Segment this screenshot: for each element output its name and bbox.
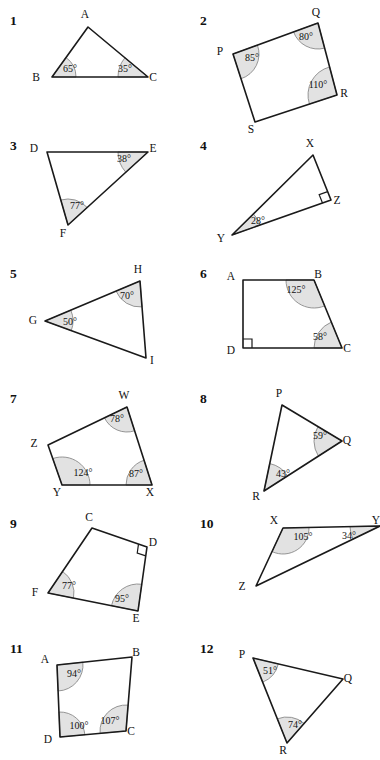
problem-6: 6125°58°ABCD — [190, 258, 380, 383]
angle-measure-E: 38° — [117, 153, 131, 164]
vertex-label-D: D — [30, 142, 38, 154]
angle-measure-B: 65° — [63, 63, 77, 74]
vertex-label-X: X — [270, 514, 279, 526]
figure-8: 59°43°PQR — [190, 383, 380, 508]
vertex-label-Z: Z — [238, 580, 245, 592]
vertex-label-E: E — [149, 142, 156, 154]
angle-measure-Q: 80° — [299, 31, 313, 42]
vertex-label-B: B — [132, 646, 140, 658]
vertex-label-Z: Z — [333, 194, 340, 206]
problem-4: 428°XYZ — [190, 130, 380, 255]
vertex-label-R: R — [252, 490, 260, 502]
worksheet-page: 165°35°ABC285°80°110°PQRS338°77°DEF428°X… — [0, 0, 380, 760]
figure-3: 38°77°DEF — [0, 130, 190, 255]
problem-2: 285°80°110°PQRS — [190, 5, 380, 130]
angle-measure-G: 50° — [63, 316, 77, 327]
vertex-label-A: A — [41, 653, 50, 665]
vertex-label-P: P — [217, 45, 223, 57]
figure-11: 94°107°100°ABCD — [0, 633, 190, 758]
vertex-label-I: I — [150, 354, 154, 366]
problem-8: 859°43°PQR — [190, 383, 380, 508]
problem-10: 10105°34°XYZ — [190, 508, 380, 633]
angle-measure-P: 51° — [263, 665, 277, 676]
vertex-label-A: A — [81, 8, 90, 20]
vertex-label-C: C — [149, 71, 157, 83]
angle-measure-D: 100° — [70, 720, 89, 731]
vertex-label-G: G — [29, 314, 37, 326]
vertex-label-W: W — [119, 389, 130, 401]
angle-measure-C: 58° — [313, 331, 327, 342]
angle-measure-C: 35° — [118, 63, 132, 74]
vertex-label-H: H — [134, 263, 142, 275]
shape-outline — [256, 526, 380, 586]
figure-12: 51°74°PQR — [190, 633, 380, 758]
vertex-label-X: X — [306, 137, 315, 149]
problem-5: 550°70°GHI — [0, 258, 190, 383]
angle-measure-R: 74° — [288, 719, 302, 730]
angle-measure-X: 105° — [294, 531, 313, 542]
angle-measure-H: 70° — [120, 290, 134, 301]
vertex-label-B: B — [32, 71, 40, 83]
vertex-label-F: F — [60, 227, 66, 239]
vertex-label-X: X — [146, 486, 155, 498]
angle-measure-F: 77° — [70, 200, 84, 211]
angle-measure-X: 87° — [129, 468, 143, 479]
vertex-label-A: A — [227, 270, 236, 282]
vertex-label-Y: Y — [217, 232, 226, 244]
vertex-label-B: B — [314, 268, 322, 280]
right-angle-marker-D — [243, 339, 252, 348]
vertex-label-R: R — [340, 87, 348, 99]
vertex-label-R: R — [279, 744, 287, 756]
vertex-label-P: P — [276, 387, 282, 399]
vertex-label-C: C — [127, 725, 135, 737]
vertex-label-D: D — [149, 536, 157, 548]
angle-measure-Q: 59° — [313, 430, 327, 441]
problem-1: 165°35°ABC — [0, 5, 190, 130]
figure-4: 28°XYZ — [190, 130, 380, 255]
angle-measure-R: 43° — [276, 468, 290, 479]
angle-measure-B: 125° — [287, 284, 306, 295]
angle-measure-Y: 28° — [251, 215, 265, 226]
figure-1: 65°35°ABC — [0, 5, 190, 130]
problem-3: 338°77°DEF — [0, 130, 190, 255]
vertex-label-Q: Q — [344, 672, 353, 684]
vertex-label-D: D — [44, 733, 52, 745]
vertex-label-D: D — [227, 344, 235, 356]
problem-9: 977°95°CDEF — [0, 508, 190, 633]
vertex-label-Y: Y — [372, 514, 380, 526]
problem-12: 1251°74°PQR — [190, 633, 380, 758]
figure-9: 77°95°CDEF — [0, 508, 190, 633]
vertex-label-C: C — [85, 511, 93, 523]
angle-measure-E: 95° — [115, 593, 129, 604]
angle-measure-F: 77° — [62, 580, 76, 591]
vertex-label-P: P — [239, 648, 245, 660]
vertex-label-Q: Q — [312, 6, 321, 18]
angle-measure-Y: 124° — [74, 467, 93, 478]
vertex-label-E: E — [132, 612, 139, 624]
figure-5: 50°70°GHI — [0, 258, 190, 383]
figure-10: 105°34°XYZ — [190, 508, 380, 633]
problem-7: 778°87°124°WXYZ — [0, 383, 190, 508]
angle-measure-Y: 34° — [342, 530, 356, 541]
figure-7: 78°87°124°WXYZ — [0, 383, 190, 508]
vertex-label-Y: Y — [53, 486, 62, 498]
vertex-label-F: F — [32, 586, 38, 598]
angle-measure-A: 94° — [67, 668, 81, 679]
problem-11: 1194°107°100°ABCD — [0, 633, 190, 758]
angle-measure-R: 110° — [309, 79, 328, 90]
angle-measure-P: 85° — [245, 52, 259, 63]
vertex-label-C: C — [343, 342, 351, 354]
vertex-label-Z: Z — [30, 437, 37, 449]
angle-measure-W: 78° — [110, 413, 124, 424]
figure-6: 125°58°ABCD — [190, 258, 380, 383]
angle-measure-C: 107° — [101, 715, 120, 726]
vertex-label-Q: Q — [343, 434, 352, 446]
figure-2: 85°80°110°PQRS — [190, 5, 380, 130]
